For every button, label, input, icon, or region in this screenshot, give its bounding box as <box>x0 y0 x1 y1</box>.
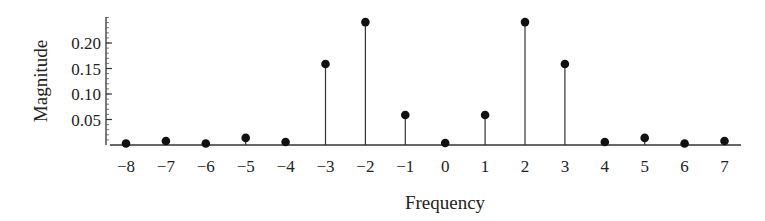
stem-marker <box>122 139 131 148</box>
stem-marker <box>441 139 450 148</box>
stem-marker <box>481 111 490 120</box>
stem-marker <box>321 60 330 69</box>
x-tick-label: 0 <box>441 157 450 176</box>
stem-marker <box>241 134 250 143</box>
x-tick-label: 5 <box>640 157 649 176</box>
y-tick-label: 0.10 <box>71 85 101 104</box>
x-axis: −8−7−6−5−4−3−2−101234567 <box>110 145 741 176</box>
stem-point <box>441 139 450 148</box>
stem-point <box>162 137 171 146</box>
x-tick-label: −8 <box>117 157 135 176</box>
x-tick-label: 6 <box>680 157 689 176</box>
stem-marker <box>640 134 649 143</box>
stem-marker <box>601 138 610 147</box>
stem-point <box>720 137 729 146</box>
stem-marker <box>162 137 171 146</box>
stem-point <box>401 111 410 145</box>
y-axis-label: Magnitude <box>30 40 51 122</box>
stem-point <box>122 139 131 148</box>
stem-point <box>640 134 649 145</box>
stem-point <box>521 18 530 145</box>
x-tick-label: 3 <box>561 157 570 176</box>
stem-point <box>481 111 490 145</box>
stem-series <box>122 18 729 148</box>
x-tick-label: 4 <box>601 157 610 176</box>
y-tick-label: 0.15 <box>71 60 101 79</box>
y-axis: 0.050.100.150.20 <box>71 17 112 145</box>
x-tick-label: 2 <box>521 157 530 176</box>
x-tick-label: 1 <box>481 157 490 176</box>
x-tick-label: −6 <box>197 157 215 176</box>
x-tick-label: −5 <box>237 157 255 176</box>
stem-point <box>321 60 330 145</box>
x-tick-label: −4 <box>277 157 296 176</box>
x-tick-label: 7 <box>720 157 729 176</box>
x-tick-label: −2 <box>356 157 374 176</box>
stem-marker <box>561 60 570 69</box>
stem-marker <box>720 137 729 146</box>
stem-point <box>361 18 370 145</box>
stem-point <box>202 139 211 148</box>
y-tick-label: 0.05 <box>71 111 101 130</box>
stem-point <box>241 134 250 145</box>
stem-marker <box>281 138 290 147</box>
x-tick-label: −3 <box>316 157 334 176</box>
stem-point <box>281 138 290 147</box>
stem-marker <box>521 18 530 27</box>
stem-point <box>601 138 610 147</box>
x-tick-label: −7 <box>157 157 176 176</box>
stem-chart: 0.050.100.150.20 −8−7−6−5−4−3−2−10123456… <box>0 0 765 221</box>
stem-point <box>680 139 689 148</box>
x-axis-label: Frequency <box>405 192 486 213</box>
stem-marker <box>680 139 689 148</box>
stem-point <box>561 60 570 145</box>
stem-marker <box>401 111 410 120</box>
y-tick-label: 0.20 <box>71 34 101 53</box>
stem-marker <box>202 139 211 148</box>
stem-marker <box>361 18 370 27</box>
x-tick-label: −1 <box>396 157 414 176</box>
